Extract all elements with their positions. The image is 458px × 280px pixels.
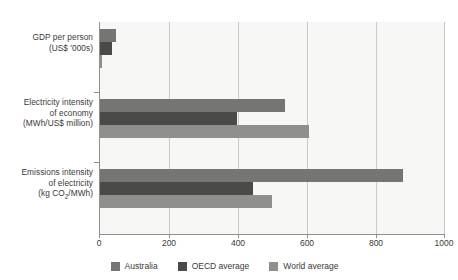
bar-electricity-oecd [99, 112, 237, 125]
bar-gdp-australia [99, 29, 116, 42]
y-axis-tick-2 [94, 162, 99, 163]
y-label-emissions-line3: (kg CO2/MWh) [0, 188, 93, 199]
y-label-electricity-line3: (MWh/US$ million) [0, 118, 93, 129]
y-label-emissions-line1: Emissions intensity [0, 167, 93, 178]
gridline-1000 [444, 22, 445, 234]
bar-emissions-oecd [99, 182, 253, 195]
bar-gdp-oecd [99, 42, 112, 55]
bars [99, 22, 444, 234]
y-label-emissions-co2-prefix: (kg CO [38, 188, 65, 198]
y-label-electricity-line2: of economy [0, 108, 93, 119]
x-tick-label-1000: 1000 [424, 238, 458, 248]
y-label-electricity: Electricity intensity of economy (MWh/US… [0, 97, 93, 129]
x-tick-label-0: 0 [79, 238, 119, 248]
x-axis-tick-labels: 0 200 400 600 800 1000 [0, 238, 449, 252]
y-label-gdp-line1: GDP per person [0, 32, 93, 43]
y-label-gdp: GDP per person (US$ '000s) [0, 32, 93, 53]
x-tick-label-600: 600 [287, 238, 327, 248]
y-axis-line [99, 22, 100, 234]
bar-emissions-australia [99, 169, 403, 182]
x-tick-label-200: 200 [149, 238, 189, 248]
legend-item-oecd-average: OECD average [178, 261, 250, 271]
y-label-emissions: Emissions intensity of electricity (kg C… [0, 167, 93, 199]
legend-label-oecd-average: OECD average [192, 261, 250, 271]
y-axis-labels: GDP per person (US$ '000s) Electricity i… [0, 22, 93, 234]
y-label-electricity-line1: Electricity intensity [0, 97, 93, 108]
bar-electricity-world [99, 125, 309, 138]
legend-swatch-icon-australia [111, 262, 120, 271]
x-axis-line [99, 234, 445, 235]
y-label-gdp-line2: (US$ '000s) [0, 43, 93, 54]
bar-emissions-world [99, 195, 272, 208]
bar-electricity-australia [99, 99, 285, 112]
x-tick-label-400: 400 [218, 238, 258, 248]
y-label-emissions-co2-suffix: /MWh) [68, 188, 93, 198]
legend-swatch-icon-world [269, 262, 278, 271]
legend-label-world-average: World average [283, 261, 338, 271]
legend: Australia OECD average World average [0, 258, 449, 274]
x-tick-label-800: 800 [356, 238, 396, 248]
legend-item-world-average: World average [269, 261, 338, 271]
y-axis-tick-1 [94, 92, 99, 93]
y-label-emissions-line2: of electricity [0, 178, 93, 189]
plot-area [99, 22, 444, 234]
legend-swatch-icon-oecd [178, 262, 187, 271]
clipped-title-strip [0, 0, 449, 8]
legend-label-australia: Australia [125, 261, 158, 271]
legend-item-australia: Australia [111, 261, 158, 271]
